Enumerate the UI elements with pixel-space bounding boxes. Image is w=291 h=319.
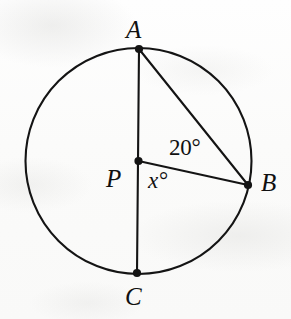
point-dot-b	[244, 181, 252, 189]
geometry-figure: A B C P 20° x°	[0, 0, 291, 319]
circle-diagram-svg	[0, 0, 291, 319]
central-angle-label: x°	[148, 169, 167, 192]
point-label-a: A	[126, 17, 141, 42]
point-dot-a	[135, 45, 143, 53]
point-dot-c	[133, 269, 141, 277]
point-label-c: C	[125, 284, 142, 309]
center-label-p: P	[106, 166, 121, 191]
point-label-b: B	[261, 170, 276, 195]
inscribed-angle-label: 20°	[169, 136, 201, 159]
point-dot-p	[134, 157, 142, 165]
